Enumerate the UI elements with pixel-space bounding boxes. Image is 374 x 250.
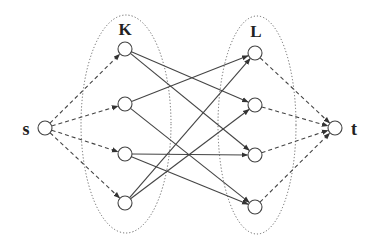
source-label: s [22,119,29,139]
node-s [38,121,52,135]
node-k3 [118,147,132,161]
edge-s-k3 [52,130,118,152]
node-k1 [118,42,132,56]
edge-k4-l1 [130,59,251,198]
sink-label: t [351,119,357,139]
node-l1 [248,46,262,60]
edge-l4-t [260,133,330,202]
node-l3 [248,148,262,162]
edge-k1-l3 [130,53,249,150]
set-l-label: L [250,22,261,41]
flow-network-diagram: K L s t [0,0,374,250]
labels: K L s t [22,20,357,139]
node-k4 [118,196,132,210]
set-ellipses [81,15,296,234]
edge-k3-l4 [131,157,248,205]
edge-s-k2 [52,106,118,126]
node-l4 [248,200,262,214]
edge-l2-t [262,107,328,126]
node-t [328,121,342,135]
edge-s-k4 [50,133,119,198]
node-l2 [248,98,262,112]
edge-s-k1 [50,54,120,123]
edges [50,52,330,204]
edge-l3-t [262,130,328,152]
node-k2 [118,97,132,111]
set-k-label: K [118,20,132,39]
edge-l1-t [260,58,329,123]
